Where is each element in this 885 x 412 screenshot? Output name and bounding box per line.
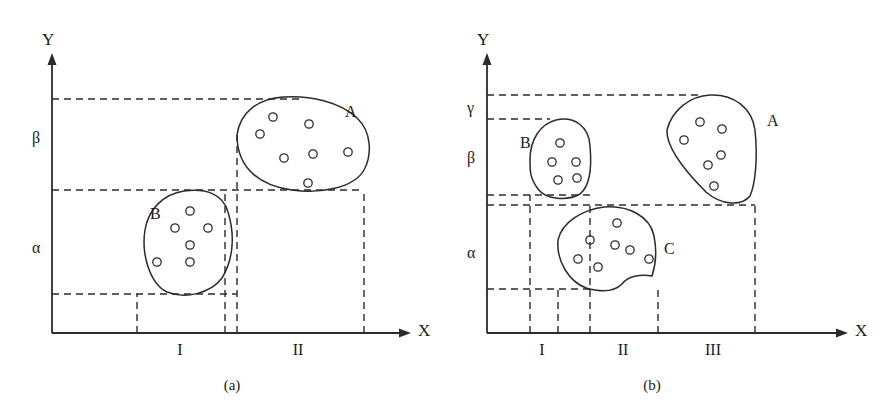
x-interval-label: III <box>705 341 721 359</box>
data-point <box>548 158 556 166</box>
data-point <box>611 241 619 249</box>
data-point <box>717 151 725 159</box>
data-point <box>696 118 704 126</box>
y-tick-label-γ: γ <box>467 99 474 117</box>
data-point <box>680 136 688 144</box>
data-point <box>204 224 212 232</box>
data-point <box>280 154 288 162</box>
x-interval-label: I <box>177 341 182 359</box>
data-point <box>554 176 562 184</box>
data-point <box>186 207 194 215</box>
figure-canvas <box>0 0 885 412</box>
data-point <box>344 148 352 156</box>
data-point <box>626 246 634 254</box>
panel-caption-a: (a) <box>224 377 241 394</box>
data-point <box>269 113 277 121</box>
data-point <box>574 255 582 263</box>
panel-b <box>483 53 849 338</box>
data-point <box>613 219 621 227</box>
x-axis-label: X <box>855 321 867 341</box>
y-axis-arrowhead <box>48 53 57 65</box>
cluster-label-a: A <box>767 112 779 130</box>
figure-root: YXβαIIIAB(a)YXγβαIIIIIIABC(b) <box>0 0 885 412</box>
y-tick-label-β: β <box>32 129 40 147</box>
data-point <box>704 161 712 169</box>
data-point <box>710 182 718 190</box>
data-point <box>171 224 179 232</box>
y-tick-label-α: α <box>467 244 475 262</box>
data-point <box>594 263 602 271</box>
y-tick-label-β: β <box>467 149 475 167</box>
y-axis-label: Y <box>477 30 489 50</box>
cluster-label-a: A <box>345 103 357 121</box>
x-axis-arrowhead <box>836 329 848 338</box>
cluster-label-b: B <box>150 205 161 223</box>
data-point <box>572 158 580 166</box>
y-axis-arrowhead <box>483 53 492 65</box>
data-point <box>573 174 581 182</box>
panel-caption-b: (b) <box>643 377 661 394</box>
data-point <box>186 241 194 249</box>
data-point <box>304 179 312 187</box>
x-axis-label: X <box>418 321 430 341</box>
x-axis-arrowhead <box>399 329 411 338</box>
y-axis-label: Y <box>42 30 54 50</box>
y-tick-label-α: α <box>32 239 40 257</box>
x-interval-label: I <box>539 341 544 359</box>
data-point <box>645 255 653 263</box>
cluster-label-c: C <box>664 240 675 258</box>
data-point <box>556 139 564 147</box>
data-point <box>305 120 313 128</box>
data-point <box>256 130 264 138</box>
cluster-outline-b <box>530 119 591 198</box>
cluster-outline-c <box>558 207 656 291</box>
panel-a <box>48 53 412 338</box>
cluster-label-b: B <box>520 134 531 152</box>
cluster-outline-a <box>667 95 756 203</box>
x-interval-label: II <box>293 341 304 359</box>
data-point <box>309 150 317 158</box>
data-point <box>186 258 194 266</box>
x-interval-label: II <box>618 341 629 359</box>
data-point <box>718 125 726 133</box>
data-point <box>153 258 161 266</box>
